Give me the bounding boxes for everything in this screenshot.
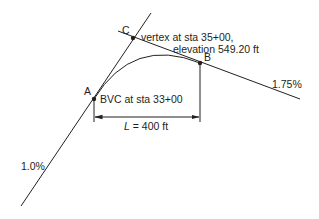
point-a-label: A [84, 85, 91, 97]
incoming-grade-label: 1.0% [21, 160, 45, 172]
bvc-description: BVC at sta 33+00 [100, 93, 183, 105]
vertex-description-line2: elevation 549.20 ft [173, 43, 259, 55]
curve-length-value: = 400 ft [130, 120, 168, 132]
curve-length-label: L = 400 ft [124, 120, 168, 132]
vertex-description-line1: vertex at sta 35+00, [141, 31, 234, 43]
point-c-marker [131, 36, 135, 40]
point-b-marker [198, 61, 202, 65]
incoming-grade-line [21, 13, 151, 206]
point-a-marker [92, 97, 96, 101]
outgoing-grade-label: 1.75% [272, 78, 302, 90]
point-c-label: C [122, 24, 130, 36]
vertical-curve-diagram: A B C vertex at sta 35+00, elevation 549… [0, 0, 319, 219]
